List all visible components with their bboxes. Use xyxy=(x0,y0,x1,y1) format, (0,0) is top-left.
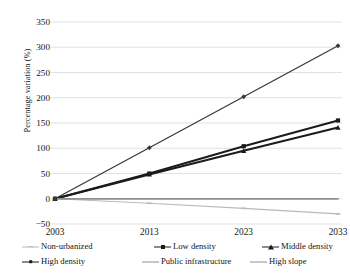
legend-tick-marker xyxy=(28,246,33,248)
legend-key-icon xyxy=(250,256,267,267)
data-point-marker xyxy=(336,118,340,122)
series-line xyxy=(55,46,338,199)
legend-key-icon xyxy=(262,241,279,252)
legend-item-public-infrastructure[interactable]: Public infrastructure xyxy=(142,254,231,269)
legend-key-icon xyxy=(22,256,39,267)
legend-label: Low density xyxy=(173,241,216,252)
legend-label: Public infrastructure xyxy=(161,256,231,267)
chart-legend: Non-urbanizedLow densityMiddle density H… xyxy=(22,239,342,273)
legend-label: Middle density xyxy=(281,241,333,252)
legend-item-middle-density[interactable]: Middle density xyxy=(262,239,333,254)
legend-row-1: Non-urbanizedLow densityMiddle density xyxy=(22,239,342,254)
legend-square-marker xyxy=(161,245,165,249)
data-point-marker xyxy=(336,213,341,215)
legend-triangle-marker xyxy=(268,244,274,249)
legend-line xyxy=(142,261,159,262)
series-line xyxy=(55,128,338,199)
data-point-marker xyxy=(147,145,152,150)
series-line xyxy=(55,199,338,214)
legend-item-non-urbanized[interactable]: Non-urbanized xyxy=(22,239,93,254)
legend-item-low-density[interactable]: Low density xyxy=(154,239,216,254)
legend-row-2: High densityPublic infrastructureHigh sl… xyxy=(22,254,342,269)
legend-label: High density xyxy=(41,256,85,267)
legend-line xyxy=(250,261,267,262)
legend-item-high-slope[interactable]: High slope xyxy=(250,254,306,269)
legend-key-icon xyxy=(154,241,171,252)
series-lines xyxy=(55,46,338,214)
line-chart: Percentage variation (%) 350300250200150… xyxy=(0,0,350,279)
data-point-marker xyxy=(242,144,246,148)
data-point-marker xyxy=(241,94,246,99)
legend-key-icon xyxy=(22,241,39,252)
data-point-marker xyxy=(147,202,152,204)
gridlines xyxy=(51,22,342,224)
legend-key-icon xyxy=(142,256,159,267)
data-point-marker xyxy=(241,208,246,210)
plot-canvas xyxy=(0,0,350,279)
legend-diamond-marker xyxy=(29,260,33,264)
legend-label: Non-urbanized xyxy=(41,241,93,252)
legend-item-high-density[interactable]: High density xyxy=(22,254,85,269)
legend-label: High slope xyxy=(269,256,306,267)
